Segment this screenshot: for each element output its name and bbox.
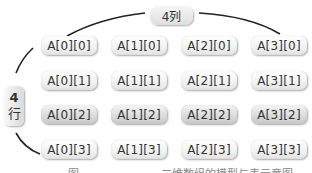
array-cell: A[0][3] bbox=[41, 140, 97, 159]
column-arc-left bbox=[67, 13, 145, 36]
array-cell: A[1][1] bbox=[111, 71, 167, 90]
array-cell: A[1][3] bbox=[111, 140, 167, 159]
array-cell: A[2][3] bbox=[181, 140, 237, 159]
array-cell-highlighted: A[1][2] bbox=[111, 105, 167, 124]
array-cell-highlighted: A[3][2] bbox=[251, 105, 307, 124]
array-cell: A[0][1] bbox=[41, 71, 97, 90]
row-count-char: 行 bbox=[8, 106, 21, 122]
array-cell: A[2][0] bbox=[181, 36, 237, 55]
column-count-label: 4列 bbox=[150, 6, 193, 25]
array-cell: A[2][1] bbox=[181, 71, 237, 90]
array-cell: A[3][3] bbox=[251, 140, 307, 159]
array-cell: A[3][0] bbox=[251, 36, 307, 55]
column-arc-right bbox=[199, 13, 280, 34]
array-cell: A[3][1] bbox=[251, 71, 307, 90]
array-cell-highlighted: A[2][2] bbox=[181, 105, 237, 124]
figure-caption: 图 二维数组的模型与表示意图 bbox=[68, 165, 294, 173]
row-arc-top bbox=[16, 48, 33, 73]
row-count-label: 4 行 bbox=[4, 86, 24, 126]
array-cell: A[1][0] bbox=[111, 36, 167, 55]
row-count-number: 4 bbox=[9, 90, 18, 106]
array-cell: A[0][0] bbox=[41, 36, 97, 55]
array-cell-highlighted: A[0][2] bbox=[41, 105, 97, 124]
row-arc-bottom bbox=[16, 133, 40, 154]
